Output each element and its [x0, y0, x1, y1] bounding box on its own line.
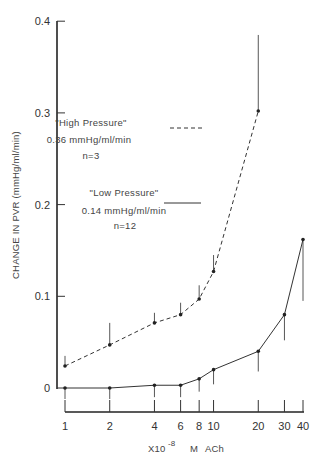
y-axis: 00.10.20.30.4: [35, 15, 65, 394]
acetylcholine-pvr-chart: 00.10.20.30.4 CHANGE IN PVR (mmHg/ml/min…: [0, 0, 324, 457]
y-tick-label: 0.1: [35, 290, 50, 302]
svg-text:n=3: n=3: [82, 150, 99, 161]
data-point: [108, 343, 112, 347]
legend-high-pressure: "High Pressure" 0.36 mmHg/ml/min n=3: [47, 117, 202, 161]
y-tick-label: 0: [44, 382, 50, 394]
x-tick-label: 8: [196, 420, 202, 432]
svg-text:ACh: ACh: [205, 443, 224, 454]
x-axis-title: X10 -8 M ACh: [148, 439, 224, 454]
data-point: [63, 386, 67, 390]
y-tick-label: 0.4: [35, 15, 50, 27]
x-tick-label: 30: [278, 420, 290, 432]
data-point: [108, 386, 112, 390]
svg-text:M: M: [190, 443, 198, 454]
svg-text:n=12: n=12: [114, 220, 137, 231]
x-tick-label: 6: [178, 420, 184, 432]
x-axis: 1246810203040: [62, 400, 309, 432]
svg-text:"High Pressure": "High Pressure": [55, 117, 126, 128]
x-tick-label: 2: [107, 420, 113, 432]
series-line: [65, 239, 303, 388]
data-point: [301, 238, 305, 242]
y-tick-label: 0.3: [35, 107, 50, 119]
x-tick-label: 4: [151, 420, 157, 432]
data-point: [179, 383, 183, 387]
svg-text:-8: -8: [168, 439, 176, 448]
data-point: [283, 313, 287, 317]
data-point: [212, 368, 216, 372]
series-high-pressure: [63, 35, 260, 368]
data-point: [153, 321, 157, 325]
svg-text:X10: X10: [148, 443, 166, 454]
data-point: [256, 350, 260, 354]
x-tick-label: 20: [252, 420, 264, 432]
svg-text:0.14 mmHg/ml/min: 0.14 mmHg/ml/min: [82, 205, 167, 216]
series-low-pressure: [63, 238, 305, 399]
data-point: [197, 297, 201, 301]
data-point: [63, 364, 67, 368]
data-point: [153, 383, 157, 387]
data-point: [197, 377, 201, 381]
data-point: [179, 313, 183, 317]
y-tick-label: 0.2: [35, 199, 50, 211]
legend-low-pressure: "Low Pressure" 0.14 mmHg/ml/min n=12: [82, 187, 201, 231]
svg-text:"Low Pressure": "Low Pressure": [89, 187, 158, 198]
x-tick-label: 10: [207, 420, 219, 432]
x-tick-label: 40: [297, 420, 309, 432]
x-tick-label: 1: [62, 420, 68, 432]
data-point: [256, 109, 260, 113]
data-point: [212, 270, 216, 274]
y-axis-title: CHANGE IN PVR (mmHg/ml/min): [10, 131, 21, 279]
svg-text:0.36 mmHg/ml/min: 0.36 mmHg/ml/min: [47, 134, 132, 145]
